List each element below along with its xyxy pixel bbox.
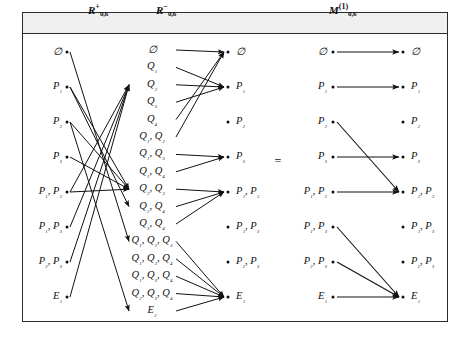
label-composite-target-2: P₂ <box>411 116 420 128</box>
edge-rplus-10 <box>70 85 129 297</box>
node-composite-source-0 <box>332 51 335 54</box>
node-composite-target-2 <box>402 121 405 124</box>
label-middle-2: Q₂ <box>147 79 157 91</box>
edge-rminus-10 <box>176 192 224 224</box>
node-composite-target-3 <box>402 156 405 159</box>
node-composite-target-0 <box>402 51 405 54</box>
edge-rminus-7 <box>176 157 224 172</box>
node-left-source-1 <box>66 86 69 89</box>
label-left-source-7: E₁ <box>53 291 62 303</box>
label-middle-9: Q₂, Q₄ <box>139 201 165 213</box>
edge-rminus-12 <box>176 259 224 297</box>
label-rminus-target-6: P₂, P₃ <box>236 256 259 268</box>
node-composite-source-7 <box>332 296 335 299</box>
label-middle-0: ∅ <box>148 45 157 56</box>
edge-composite-5 <box>337 227 399 297</box>
label-composite-source-4: P₁, P₂ <box>304 186 327 198</box>
label-left-source-0: ∅ <box>53 47 62 58</box>
label-rminus-target-1: P₁ <box>236 81 245 93</box>
label-rminus-target-4: P₁, P₂ <box>236 186 259 198</box>
label-middle-12: Q₁, Q₂, Q₄ <box>131 253 172 265</box>
label-left-source-2: P₂ <box>53 116 62 128</box>
label-middle-10: Q₃, Q₄ <box>139 218 165 230</box>
label-left-source-3: P₃ <box>53 151 62 163</box>
label-middle-15: E₂ <box>147 305 156 317</box>
label-middle-6: Q₁, Q₃ <box>139 149 165 161</box>
label-middle-4: Q₄ <box>147 114 157 126</box>
edge-composite-6 <box>337 262 399 297</box>
node-rminus-target-1 <box>227 86 230 89</box>
label-composite-source-0: ∅ <box>318 47 327 58</box>
label-composite-target-1: P₁ <box>411 81 420 93</box>
edge-rplus-7 <box>70 85 129 192</box>
label-composite-target-6: P₂, P₃ <box>411 256 434 268</box>
node-composite-source-3 <box>332 156 335 159</box>
node-composite-source-6 <box>332 261 335 264</box>
relation-arrows <box>0 0 464 337</box>
edge-rminus-6 <box>176 154 224 157</box>
label-composite-target-7: E₁ <box>411 291 420 303</box>
node-composite-source-4 <box>332 191 335 194</box>
edge-rplus-4 <box>70 122 129 311</box>
label-rminus-target-0: ∅ <box>236 47 245 58</box>
label-composite-source-5: P₁, P₃ <box>304 221 327 233</box>
label-rminus-target-5: P₁, P₃ <box>236 221 259 233</box>
node-composite-target-4 <box>402 191 405 194</box>
node-composite-target-6 <box>402 261 405 264</box>
edge-rminus-15 <box>176 297 224 311</box>
label-composite-target-0: ∅ <box>411 47 420 58</box>
node-rminus-target-2 <box>227 121 230 124</box>
node-rminus-target-5 <box>227 226 230 229</box>
node-left-source-5 <box>66 226 69 229</box>
node-composite-source-5 <box>332 226 335 229</box>
label-rminus-target-3: P₃ <box>236 151 245 163</box>
node-composite-source-1 <box>332 86 335 89</box>
label-rminus-target-7: E₁ <box>236 291 245 303</box>
label-middle-11: Q₁, Q₂, Q₃ <box>131 236 172 248</box>
node-left-source-7 <box>66 296 69 299</box>
node-left-source-4 <box>66 191 69 194</box>
node-rminus-target-0 <box>227 51 230 54</box>
node-left-source-0 <box>66 51 69 54</box>
node-left-source-3 <box>66 156 69 159</box>
node-composite-target-7 <box>402 296 405 299</box>
edge-rminus-11 <box>176 241 224 297</box>
label-middle-14: Q₂, Q₃, Q₄ <box>131 288 172 300</box>
edge-rplus-8 <box>70 85 129 227</box>
label-left-source-4: P₁, P₂ <box>39 186 62 198</box>
label-composite-source-1: P₁ <box>318 81 327 93</box>
label-composite-source-3: P₃ <box>318 151 327 163</box>
node-left-source-6 <box>66 261 69 264</box>
node-composite-target-5 <box>402 226 405 229</box>
node-composite-source-2 <box>332 121 335 124</box>
edge-rminus-9 <box>176 192 224 207</box>
label-left-source-5: P₁, P₃ <box>39 221 62 233</box>
node-rminus-target-4 <box>227 191 230 194</box>
label-left-source-6: P₂, P₃ <box>39 256 62 268</box>
edge-rminus-4 <box>176 52 224 120</box>
label-middle-13: Q₁, Q₃, Q₄ <box>131 270 172 282</box>
label-composite-source-6: P₂, P₃ <box>304 256 327 268</box>
label-composite-target-4: P₁, P₂ <box>411 186 434 198</box>
label-middle-8: Q₂, Q₃ <box>139 183 165 195</box>
figure-canvas: R+0,6 R−0,6 M(1)0,6 = ∅P₁P₂P₃P₁, P₂P₁, P… <box>0 0 464 337</box>
label-middle-1: Q₁ <box>147 62 157 74</box>
label-middle-7: Q₁, Q₄ <box>139 166 165 178</box>
label-rminus-target-2: P₂ <box>236 116 245 128</box>
edge-rminus-8 <box>176 189 224 192</box>
edge-rminus-1 <box>176 67 224 87</box>
label-composite-source-7: E₁ <box>318 291 327 303</box>
label-middle-3: Q₃ <box>147 96 157 108</box>
node-left-source-2 <box>66 121 69 124</box>
node-composite-target-1 <box>402 86 405 89</box>
node-rminus-target-6 <box>227 261 230 264</box>
label-composite-target-3: P₃ <box>411 151 420 163</box>
label-composite-source-2: P₂ <box>318 116 327 128</box>
edge-rminus-0 <box>176 50 224 52</box>
edge-rminus-5 <box>176 52 224 137</box>
label-composite-target-5: P₁, P₃ <box>411 221 434 233</box>
node-rminus-target-7 <box>227 296 230 299</box>
label-left-source-1: P₁ <box>53 81 62 93</box>
node-rminus-target-3 <box>227 156 230 159</box>
label-middle-5: Q₁, Q₂ <box>139 131 165 143</box>
